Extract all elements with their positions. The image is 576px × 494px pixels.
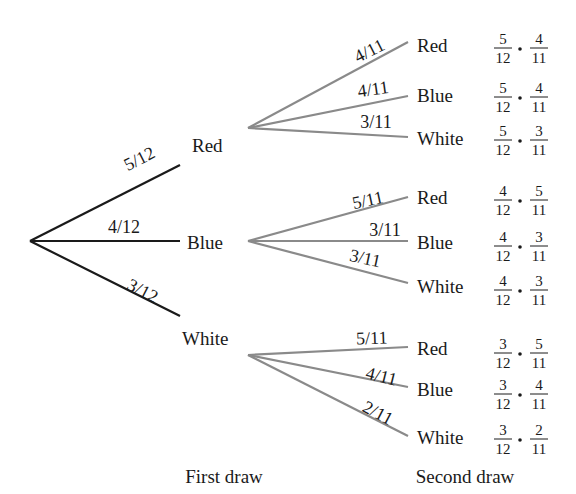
multiply-dot-icon [518, 289, 522, 293]
first-draw-prob-white: 3/12 [124, 274, 162, 306]
second-draw-branch-white-red [248, 347, 408, 355]
denominator: 12 [496, 355, 511, 371]
second-draw-outcome-blue-blue: Blue [417, 232, 453, 253]
denominator: 11 [532, 99, 546, 115]
denominator: 12 [496, 441, 511, 457]
second-draw-branch-blue-white [248, 241, 408, 283]
second-draw-prob-white-red: 5/11 [356, 327, 388, 348]
product-red-blue: 512411 [494, 80, 548, 115]
multiply-dot-icon [518, 199, 522, 203]
draw-axis-labels: First draw Second draw [185, 466, 514, 487]
multiply-dot-icon [518, 352, 522, 356]
numerator: 3 [535, 229, 543, 245]
second-draw-outcome-red-white: White [417, 128, 463, 149]
denominator: 12 [496, 99, 511, 115]
first-draw-branch-red [30, 165, 180, 241]
denominator: 11 [532, 292, 546, 308]
second-draw-outcome-red-blue: Blue [417, 85, 453, 106]
first-draw-label: First draw [185, 466, 263, 487]
denominator: 11 [532, 355, 546, 371]
multiply-dot-icon [518, 47, 522, 51]
denominator: 11 [532, 396, 546, 412]
multiply-dot-icon [518, 393, 522, 397]
multiply-dot-icon [518, 96, 522, 100]
second-draw-prob-red-blue: 4/11 [356, 77, 390, 101]
product-white-red: 312511 [494, 336, 548, 371]
numerator: 5 [499, 80, 507, 96]
second-draw-outcome-white-blue: Blue [417, 379, 453, 400]
numerator: 2 [535, 422, 543, 438]
numerator: 4 [535, 80, 543, 96]
multiply-dot-icon [518, 139, 522, 143]
numerator: 5 [535, 183, 543, 199]
numerator: 3 [499, 422, 507, 438]
product-red-white: 512311 [494, 123, 548, 158]
denominator: 12 [496, 396, 511, 412]
second-draw-prob-red-white: 3/11 [360, 112, 391, 132]
tree-canvas: 5/12Red4/12Blue3/12White4/11Red4/11Blue3… [0, 0, 576, 494]
second-draw-prob-white-white: 2/11 [359, 397, 396, 429]
denominator: 11 [532, 142, 546, 158]
numerator: 3 [535, 273, 543, 289]
numerator: 4 [499, 229, 507, 245]
second-draw-prob-red-red: 4/11 [351, 35, 388, 67]
first-draw-branch-white [30, 241, 180, 316]
second-draw-outcome-blue-white: White [417, 276, 463, 297]
second-draw-prob-blue-blue: 3/11 [369, 220, 400, 240]
denominator: 11 [532, 50, 546, 66]
denominator: 12 [496, 202, 511, 218]
second-draw-prob-blue-red: 5/11 [350, 187, 385, 213]
first-draw-outcome-blue: Blue [187, 232, 223, 253]
first-draw-outcome-red: Red [192, 135, 223, 156]
denominator: 11 [532, 202, 546, 218]
multiply-dot-icon [518, 245, 522, 249]
numerator: 4 [535, 31, 543, 47]
numerator: 3 [499, 336, 507, 352]
second-draw-prob-blue-white: 3/11 [348, 245, 383, 271]
numerator: 3 [535, 123, 543, 139]
first-draw-prob-blue: 4/12 [108, 217, 140, 237]
denominator: 11 [532, 441, 546, 457]
denominator: 12 [496, 248, 511, 264]
denominator: 12 [496, 50, 511, 66]
probability-tree-diagram: 5/12Red4/12Blue3/12White4/11Red4/11Blue3… [0, 0, 576, 494]
second-draw-outcome-blue-red: Red [417, 187, 448, 208]
numerator: 5 [535, 336, 543, 352]
product-white-white: 312211 [494, 422, 548, 457]
first-draw-prob-red: 5/12 [120, 142, 158, 174]
product-blue-white: 412311 [494, 273, 548, 308]
multiply-dot-icon [518, 438, 522, 442]
numerator: 5 [499, 123, 507, 139]
product-red-red: 512411 [494, 31, 548, 66]
second-draw-prob-white-blue: 4/11 [364, 363, 399, 390]
denominator: 12 [496, 142, 511, 158]
numerator: 4 [499, 273, 507, 289]
numerator: 5 [499, 31, 507, 47]
first-draw-outcome-white: White [182, 328, 228, 349]
second-draw-outcome-white-red: Red [417, 338, 448, 359]
numerator: 4 [499, 183, 507, 199]
second-draw-outcome-red-red: Red [417, 35, 448, 56]
second-draw-label: Second draw [416, 466, 515, 487]
product-blue-red: 412511 [494, 183, 548, 218]
numerator: 3 [499, 377, 507, 393]
outcome-products: 5124115124115123114125114123114123113125… [494, 31, 548, 457]
product-white-blue: 312411 [494, 377, 548, 412]
second-draw-outcome-white-white: White [417, 427, 463, 448]
denominator: 11 [532, 248, 546, 264]
product-blue-blue: 412311 [494, 229, 548, 264]
numerator: 4 [535, 377, 543, 393]
denominator: 12 [496, 292, 511, 308]
